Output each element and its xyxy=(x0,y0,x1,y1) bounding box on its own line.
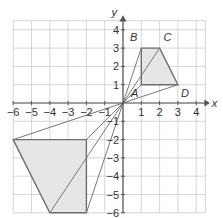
x-tick-label: −4 xyxy=(44,106,57,118)
y-tick-label: −4 xyxy=(106,170,119,182)
y-tick-label: −3 xyxy=(106,152,119,164)
x-tick-label: 1 xyxy=(138,106,144,118)
x-axis-label: x xyxy=(211,97,218,109)
y-tick-label: −1 xyxy=(106,115,119,127)
vertex-label-c: C xyxy=(164,31,172,43)
vertex-label-b: B xyxy=(130,31,137,43)
x-tick-label: −3 xyxy=(62,106,75,118)
x-tick-label: 2 xyxy=(157,106,163,118)
x-tick-label: 3 xyxy=(175,106,181,118)
y-tick-label: −2 xyxy=(106,134,119,146)
y-tick-label: 3 xyxy=(113,42,119,54)
x-tick-label: −5 xyxy=(25,106,38,118)
y-axis-arrow-icon xyxy=(120,15,127,21)
y-tick-label: −6 xyxy=(106,207,119,218)
x-tick-label: −2 xyxy=(80,106,93,118)
y-tick-label: 2 xyxy=(113,60,119,72)
y-tick-label: 1 xyxy=(113,79,119,91)
y-tick-label: −5 xyxy=(106,189,119,201)
x-tick-label: −6 xyxy=(7,106,20,118)
vertex-label-a: A xyxy=(130,87,138,99)
ray-line xyxy=(13,85,178,140)
coordinate-plane: −6−5−4−3−2−112344321−1−2−3−4−5−6xyABCD xyxy=(0,0,223,218)
x-tick-label: 4 xyxy=(193,106,199,118)
vertex-label-d: D xyxy=(181,87,189,99)
y-axis-label: y xyxy=(111,6,119,18)
x-axis-arrow-icon xyxy=(204,100,209,107)
y-tick-label: 4 xyxy=(113,24,119,36)
